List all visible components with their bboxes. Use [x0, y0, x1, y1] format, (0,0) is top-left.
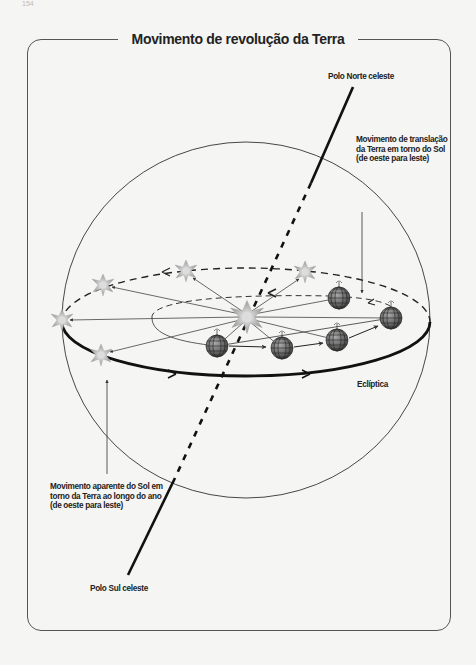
earth-orbit-front [152, 318, 391, 346]
label-line: (de oeste para leste) [50, 501, 163, 511]
earth-icon [271, 331, 293, 359]
north-pole-label: Polo Norte celeste [328, 72, 394, 82]
label-line: (de oeste para leste) [356, 154, 447, 164]
ecliptic-arrow-icon [162, 268, 170, 276]
earth-translation-label: Movimento de translação da Terra em torn… [356, 135, 447, 164]
axis-north-solid [311, 87, 353, 183]
label-line: torno da Terra ao longo do ano [50, 492, 163, 502]
label-line: Movimento aparente do Sol em [50, 482, 163, 492]
earth-icon [328, 281, 350, 309]
sun-position-icon [51, 309, 73, 331]
label-line: Movimento de translação [356, 135, 447, 145]
sun-position-icon [90, 344, 112, 366]
south-pole-label: Polo Sul celeste [90, 584, 148, 594]
ecliptic-label: Eclíptica [357, 380, 388, 390]
earth-icon [206, 329, 228, 357]
label-line: da Terra em torno do Sol [356, 145, 447, 155]
celestial-diagram [0, 0, 476, 665]
earth-icon [380, 301, 402, 329]
sun-apparent-label: Movimento aparente do Sol em torno da Te… [50, 482, 163, 511]
axis-dashed [175, 183, 311, 478]
earth-icon [326, 323, 348, 351]
earth-orbit-back [152, 296, 396, 318]
